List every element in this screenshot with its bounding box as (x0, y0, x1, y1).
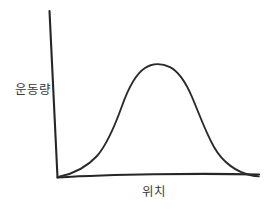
x-axis-label: 위치 (142, 186, 166, 199)
y-axis-label: 운동량 (15, 84, 52, 97)
plot-area (0, 0, 273, 209)
momentum-distribution-curve (59, 64, 259, 177)
x-axis-line (58, 174, 260, 178)
chart-figure: 운동량 위치 (0, 0, 273, 209)
